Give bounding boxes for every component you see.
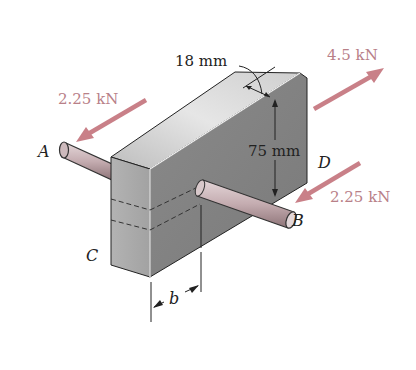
pin-a xyxy=(60,142,113,180)
width-b-label: b xyxy=(169,289,179,308)
point-b-label: B xyxy=(291,211,304,230)
force-a-label: 2.25 kN xyxy=(58,90,118,108)
point-c-label: C xyxy=(86,246,98,265)
force-b-label: 2.25 kN xyxy=(330,188,390,206)
height-label: 75 mm xyxy=(248,142,300,160)
block-end-face xyxy=(111,157,150,277)
force-d-label: 4.5 kN xyxy=(327,46,378,64)
block-pin-diagram: 18 mm 75 mm b 2.25 kN 4.5 kN 2.25 kN A B… xyxy=(0,0,416,370)
point-a-label: A xyxy=(36,142,50,161)
thickness-label: 18 mm xyxy=(175,52,227,70)
force-arrow-d xyxy=(314,68,384,109)
point-d-label: D xyxy=(317,153,331,172)
